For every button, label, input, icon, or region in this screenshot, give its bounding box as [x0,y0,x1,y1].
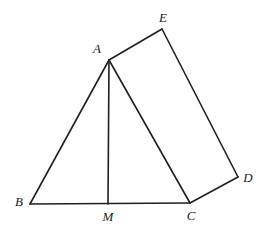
vertex-label-A: A [93,42,101,55]
vertex-label-M: M [103,210,114,223]
segment-BC [30,203,190,204]
vertex-label-B: B [15,195,23,208]
segment-AB [30,60,109,204]
vertex-label-C: C [187,209,196,222]
segment-AC [109,60,190,203]
segment-group [30,29,238,204]
segment-ED [162,29,238,177]
segment-AM [108,60,109,204]
geometry-canvas [0,0,266,230]
vertex-label-E: E [159,11,167,24]
geometry-figure: A B C D E M [0,0,266,230]
vertex-label-D: D [243,171,252,184]
segment-DC [190,177,238,203]
segment-AE [109,29,162,60]
